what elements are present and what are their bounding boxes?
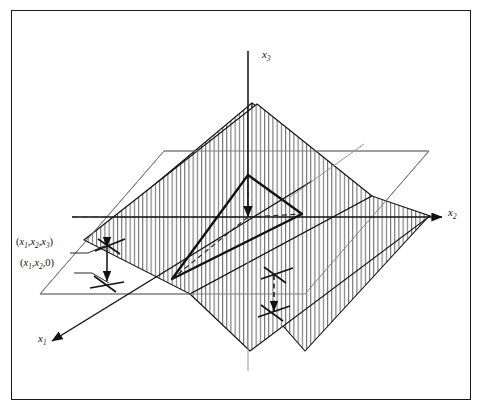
point-label-xyz-text: (x1,x2,x3) — [16, 236, 53, 247]
point-label-xyz: (x1,x2,x3) — [16, 237, 53, 250]
x3-axis-label: x3 — [262, 49, 270, 63]
label-leaders — [70, 246, 109, 283]
x1-axis-label: x1 — [38, 333, 46, 347]
x2-axis-label-text: x2 — [448, 206, 456, 218]
plane-geometry — [84, 104, 430, 351]
coordinate-diagram — [12, 11, 472, 401]
point-label-xy0: (x1,x2,0) — [20, 258, 54, 271]
leader-xy0 — [74, 273, 109, 283]
x2-axis-label: x2 — [448, 207, 456, 221]
figure-root: x3 x2 x1 (x1,x2,x3) (x1,x2,0) — [0, 0, 483, 412]
x3-axis-label-text: x3 — [262, 48, 270, 60]
point-label-xy0-text: (x1,x2,0) — [20, 257, 54, 268]
x1-axis-label-text: x1 — [38, 332, 46, 344]
figure-border: x3 x2 x1 (x1,x2,x3) (x1,x2,0) — [11, 10, 471, 400]
